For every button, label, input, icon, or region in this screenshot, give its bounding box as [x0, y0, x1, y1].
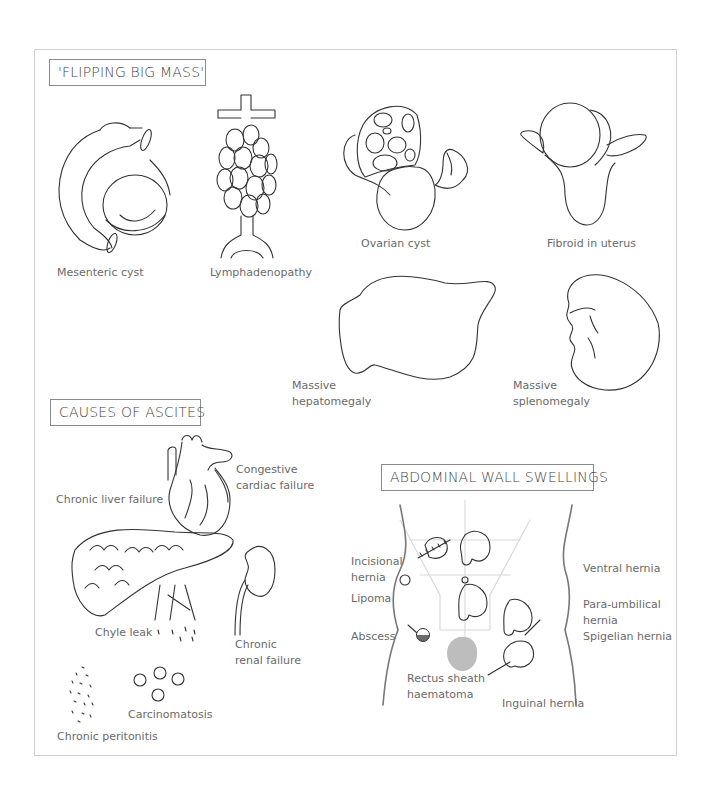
carcinomatosis-illustration: [130, 665, 190, 710]
chyle-leak-illustration: [150, 585, 210, 645]
ovarian-cyst-illustration: [335, 95, 485, 225]
kidney-illustration: [220, 540, 280, 640]
label-chronic-liver-failure: Chronic liver failure: [56, 492, 163, 508]
label-mesenteric-cyst: Mesenteric cyst: [57, 265, 144, 281]
label-massive-splenomegaly-line1: Massive: [513, 378, 557, 394]
label-ventral-hernia: Ventral hernia: [583, 561, 660, 577]
label-rectus-line1: Rectus sheath: [407, 671, 485, 687]
label-incisional-line2: hernia: [351, 570, 386, 586]
label-chronic-peritonitis: Chronic peritonitis: [57, 729, 158, 745]
label-inguinal-hernia: Inguinal hernia: [502, 696, 584, 712]
label-massive-hepatomegaly-line2: hepatomegaly: [292, 394, 371, 410]
label-chronic-renal-line2: renal failure: [235, 653, 301, 669]
label-para-umbilical-line2: hernia: [583, 613, 618, 629]
label-spigelian-hernia: Spigelian hernia: [583, 629, 672, 645]
peritonitis-illustration: [62, 665, 102, 725]
label-massive-splenomegaly-line2: splenomegaly: [513, 394, 590, 410]
label-lipoma: Lipoma: [351, 591, 391, 607]
label-ovarian-cyst: Ovarian cyst: [361, 236, 430, 252]
label-rectus-line2: haematoma: [407, 687, 473, 703]
label-abscess: Abscess: [351, 629, 396, 645]
fibroid-uterus-illustration: [515, 95, 665, 225]
label-para-umbilical-line1: Para-umbilical: [583, 597, 661, 613]
hepatomegaly-illustration: [330, 265, 500, 390]
label-incisional-line1: Incisional: [351, 554, 403, 570]
lymphadenopathy-illustration: [213, 90, 283, 260]
label-massive-hepatomegaly-line1: Massive: [292, 378, 336, 394]
mesenteric-cyst-illustration: [50, 100, 190, 260]
section-title-causes-of-ascites: CAUSES OF ASCITES: [50, 399, 201, 426]
abscess-marker: [416, 628, 430, 642]
label-chyle-leak: Chyle leak: [95, 625, 152, 641]
splenomegaly-illustration: [550, 268, 665, 398]
section-title-abdominal-wall-swellings: ABDOMINAL WALL SWELLINGS: [381, 464, 594, 491]
haematoma-marker: [447, 637, 477, 671]
section-title-flipping-big-mass: 'FLIPPING BIG MASS': [49, 59, 206, 86]
label-congestive-line1: Congestive: [236, 462, 298, 478]
label-chronic-renal-line1: Chronic: [235, 637, 277, 653]
label-fibroid-in-uterus: Fibroid in uterus: [547, 236, 636, 252]
label-congestive-line2: cardiac failure: [236, 478, 314, 494]
label-lymphadenopathy: Lymphadenopathy: [210, 265, 312, 281]
label-carcinomatosis: Carcinomatosis: [128, 707, 213, 723]
